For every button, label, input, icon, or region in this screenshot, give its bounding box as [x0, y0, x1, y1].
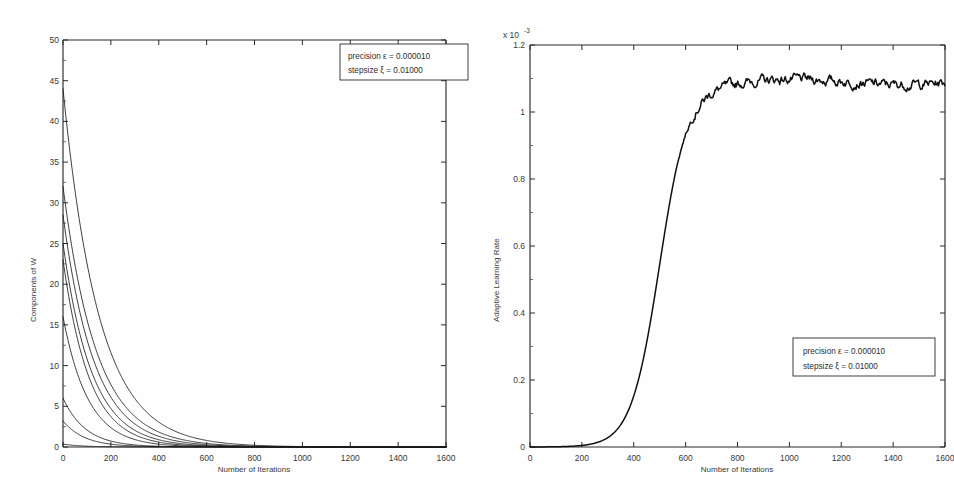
- data-series-line: [63, 215, 446, 447]
- y-tick-label: 25: [50, 239, 60, 249]
- data-series-line: [530, 73, 945, 447]
- right-legend-stepsize: stepsize ξ = 0.01000: [803, 362, 878, 371]
- data-series-line: [63, 187, 446, 447]
- y-tick-label: 0.2: [513, 375, 525, 385]
- x-tick-label: 400: [627, 453, 641, 463]
- left-plot-frame: [63, 40, 446, 447]
- x-tick-label: 800: [247, 453, 261, 463]
- y-tick-label: 35: [50, 157, 60, 167]
- x-tick-label: 1200: [832, 453, 851, 463]
- x-tick-label: 600: [679, 453, 693, 463]
- x-tick-label: 1000: [780, 453, 799, 463]
- y-tick-label: 5: [54, 401, 59, 411]
- right-legend-precision: precision ε = 0.000010: [803, 347, 886, 356]
- right-multiplier-exponent: -3: [524, 27, 530, 34]
- left-y-axis-label: Components of W: [29, 258, 38, 322]
- left-x-axis-label: Number of Iterations: [218, 465, 290, 474]
- x-tick-label: 0: [61, 453, 66, 463]
- y-tick-label: 45: [50, 76, 60, 86]
- left-chart-panel: 05101520253035404550 0200400600800100012…: [0, 0, 477, 496]
- y-tick-label: 0.4: [513, 308, 525, 318]
- left-legend: precision ε = 0.000010 stepsize ξ = 0.01…: [340, 44, 468, 80]
- data-series-line: [63, 317, 446, 447]
- x-tick-label: 400: [152, 453, 166, 463]
- y-tick-label: 1.2: [513, 40, 525, 50]
- x-tick-label: 200: [575, 453, 589, 463]
- right-y-axis-ticks: 00.20.40.60.811.2: [513, 40, 945, 452]
- x-tick-label: 1600: [936, 453, 954, 463]
- right-axis-multiplier: x 10 -3: [503, 27, 530, 40]
- y-tick-label: 0.6: [513, 241, 525, 251]
- data-series-line: [63, 89, 446, 447]
- left-y-axis-ticks: 05101520253035404550: [50, 35, 446, 452]
- right-curve-group: [530, 73, 945, 447]
- right-legend: precision ε = 0.000010 stepsize ξ = 0.01…: [793, 338, 935, 376]
- x-tick-label: 1600: [437, 453, 456, 463]
- y-tick-label: 30: [50, 198, 60, 208]
- y-tick-label: 20: [50, 279, 60, 289]
- x-tick-label: 200: [104, 453, 118, 463]
- data-series-line: [63, 398, 446, 447]
- x-tick-label: 0: [528, 453, 533, 463]
- y-tick-label: 50: [50, 35, 60, 45]
- left-legend-stepsize: stepsize ξ = 0.01000: [348, 66, 423, 75]
- x-tick-label: 1400: [389, 453, 408, 463]
- data-series-line: [63, 244, 446, 448]
- left-legend-precision: precision ε = 0.000010: [348, 52, 431, 61]
- y-tick-label: 10: [50, 361, 60, 371]
- y-tick-label: 0.8: [513, 174, 525, 184]
- right-chart-svg: 00.20.40.60.811.2 0200400600800100012001…: [477, 0, 954, 496]
- left-chart-svg: 05101520253035404550 0200400600800100012…: [0, 0, 477, 496]
- x-tick-label: 1400: [884, 453, 903, 463]
- x-tick-label: 1200: [341, 453, 360, 463]
- right-x-axis-ticks: 02004006008001000120014001600: [528, 45, 954, 463]
- right-multiplier-base: x 10: [503, 30, 519, 40]
- x-tick-label: 800: [730, 453, 744, 463]
- x-tick-label: 600: [200, 453, 214, 463]
- left-curve-group: [63, 89, 446, 447]
- y-tick-label: 15: [50, 320, 60, 330]
- right-chart-panel: 00.20.40.60.811.2 0200400600800100012001…: [477, 0, 954, 496]
- y-tick-label: 0: [54, 442, 59, 452]
- right-x-axis-label: Number of Iterations: [701, 465, 773, 474]
- y-tick-label: 0: [520, 442, 525, 452]
- right-plot-frame: [530, 45, 945, 447]
- y-tick-label: 40: [50, 116, 60, 126]
- figure-pair: 05101520253035404550 0200400600800100012…: [0, 0, 954, 496]
- right-y-axis-label: Adaptive Learning Rate: [492, 238, 501, 322]
- y-tick-label: 1: [520, 107, 525, 117]
- x-tick-label: 1000: [293, 453, 312, 463]
